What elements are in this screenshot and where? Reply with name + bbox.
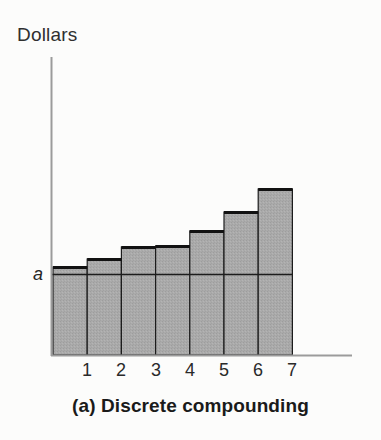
discrete-compounding-figure: Dollars a 1 2 3 4 5 6 7 (a) Discrete com…	[0, 0, 381, 440]
figure-caption: (a) Discrete compounding	[0, 394, 381, 417]
x-tick-label-6: 6	[247, 360, 269, 380]
x-tick-label-2: 2	[110, 360, 132, 380]
x-tick-label-4: 4	[179, 360, 201, 380]
bar-7	[258, 189, 292, 355]
x-tick-label-7: 7	[281, 360, 303, 380]
bar-5	[190, 231, 224, 355]
x-tick-label-3: 3	[145, 360, 167, 380]
bar-1	[53, 267, 87, 355]
x-tick-label-1: 1	[76, 360, 98, 380]
bar-3	[121, 247, 155, 355]
principal-level-label: a	[33, 264, 43, 284]
x-tick-label-5: 5	[213, 360, 235, 380]
y-axis-label: Dollars	[17, 24, 78, 46]
bar-4	[156, 246, 190, 355]
bar-6	[224, 212, 258, 355]
bar-2	[87, 259, 121, 355]
